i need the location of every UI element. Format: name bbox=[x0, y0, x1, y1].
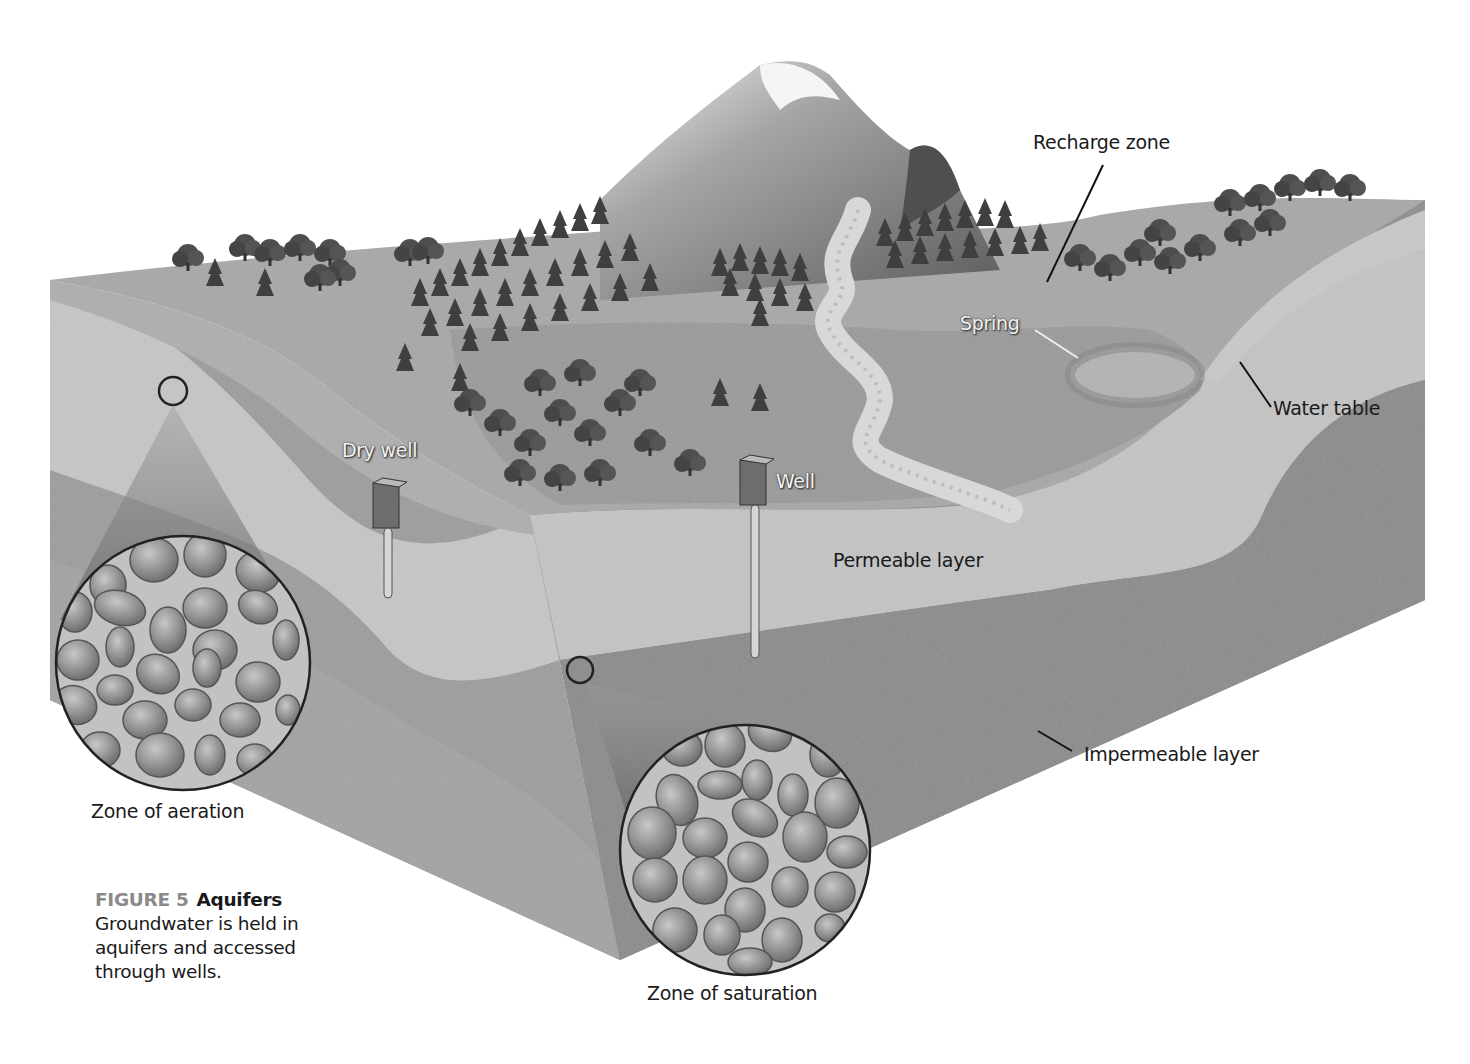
label-well: Well bbox=[776, 470, 815, 492]
label-dry-well: Dry well bbox=[342, 439, 417, 461]
figure-caption-text: Groundwater is held in aquifers and acce… bbox=[95, 913, 298, 982]
label-zone-of-saturation: Zone of saturation bbox=[647, 982, 817, 1004]
label-permeable-layer: Permeable layer bbox=[833, 549, 983, 571]
figure-caption: FIGURE 5Aquifers Groundwater is held in … bbox=[95, 888, 355, 984]
figure-number: FIGURE 5 bbox=[95, 889, 189, 910]
label-water-table: Water table bbox=[1273, 397, 1380, 419]
label-zone-of-aeration: Zone of aeration bbox=[91, 800, 244, 822]
label-impermeable-layer: Impermeable layer bbox=[1084, 743, 1259, 765]
label-spring: Spring bbox=[960, 312, 1020, 334]
figure-title: Aquifers bbox=[197, 889, 282, 910]
label-recharge-zone: Recharge zone bbox=[1033, 131, 1170, 153]
